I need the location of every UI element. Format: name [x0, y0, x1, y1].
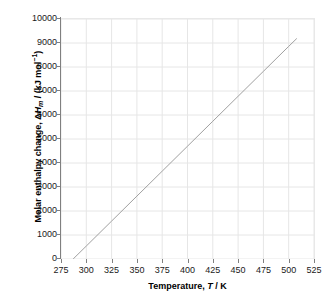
x-tick-mark — [162, 259, 163, 263]
y-axis-tick-labels: 0100020003000400050006000700080009000100… — [12, 0, 57, 299]
x-tick-mark — [238, 259, 239, 263]
y-tick-label: 9000 — [17, 37, 57, 47]
x-axis-title: Temperature, T / K — [61, 281, 314, 291]
chart-container: Molar enthalpy change, ΔHm / (kJ mol−1) … — [0, 0, 330, 299]
y-tick-label: 5000 — [17, 133, 57, 143]
x-tick-mark — [112, 259, 113, 263]
y-tick-label: 2000 — [17, 205, 57, 215]
y-tick-label: 0 — [17, 253, 57, 263]
x-tick-mark — [86, 259, 87, 263]
x-axis-title-suffix: / K — [213, 281, 227, 291]
x-tick-mark — [314, 259, 315, 263]
y-tick-label: 4000 — [17, 157, 57, 167]
x-tick-mark — [213, 259, 214, 263]
x-tick-mark — [61, 259, 62, 263]
x-tick-mark — [263, 259, 264, 263]
y-tick-label: 6000 — [17, 109, 57, 119]
y-tick-label: 3000 — [17, 181, 57, 191]
data-series-line — [61, 19, 314, 259]
y-tick-label: 7000 — [17, 85, 57, 95]
x-tick-label: 525 — [294, 265, 330, 276]
y-tick-label: 1000 — [17, 229, 57, 239]
y-tick-label: 8000 — [17, 61, 57, 71]
x-tick-mark — [289, 259, 290, 263]
plot-area — [61, 18, 315, 259]
x-axis-title-prefix: Temperature, — [148, 281, 207, 291]
x-tick-mark — [137, 259, 138, 263]
y-tick-label: 10000 — [17, 13, 57, 23]
x-tick-mark — [188, 259, 189, 263]
x-axis-tick-labels: 275300325350375400425450475500525 — [0, 265, 330, 279]
